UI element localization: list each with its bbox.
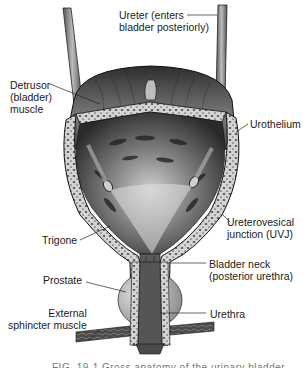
label-trigone: Trigone	[42, 234, 77, 246]
figure-caption: FIG. 19-1 Gross anatomy of the urinary b…	[52, 362, 285, 368]
label-urothelium: Urothelium	[250, 118, 301, 130]
label-ureter: Ureter (enters bladder posteriorly)	[119, 9, 209, 33]
label-urethra: Urethra	[210, 308, 245, 320]
label-bladder-neck: Bladder neck (posterior urethra)	[209, 258, 293, 282]
label-prostate: Prostate	[43, 274, 82, 286]
label-external-sphincter: External sphincter muscle	[8, 307, 87, 331]
label-ureterovesical-junction: Ureterovesical junction (UVJ)	[227, 216, 294, 240]
label-detrusor-muscle: Detrusor (bladder) muscle	[10, 79, 52, 115]
